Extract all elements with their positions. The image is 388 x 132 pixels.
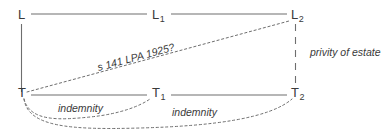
edge-label-privity-of-estate: privity of estate (310, 47, 381, 58)
node-sub-L1: 1 (160, 14, 165, 24)
node-sub-L2: 2 (299, 14, 304, 24)
edge-label-indemnity-2: indemnity (172, 107, 217, 118)
node-label-T1: T1 (152, 86, 165, 99)
node-sub-T2: 2 (299, 92, 304, 102)
node-label-L: L (18, 8, 25, 21)
node-base-L: L (18, 7, 25, 22)
node-sub-T1: 1 (160, 92, 165, 102)
node-base-L1: L (152, 7, 159, 22)
node-base-T: T (18, 85, 26, 100)
node-base-T2: T (291, 85, 299, 100)
node-base-T1: T (152, 85, 160, 100)
diagram-canvas: L L1 L2 T T1 T2 s 141 LPA 1925? privity … (0, 0, 388, 132)
node-label-L2: L2 (291, 8, 303, 21)
edge-label-indemnity-1: indemnity (58, 103, 103, 114)
node-label-L1: L1 (152, 8, 164, 21)
node-base-L2: L (291, 7, 298, 22)
node-label-T: T (18, 86, 26, 99)
node-label-T2: T2 (291, 86, 304, 99)
